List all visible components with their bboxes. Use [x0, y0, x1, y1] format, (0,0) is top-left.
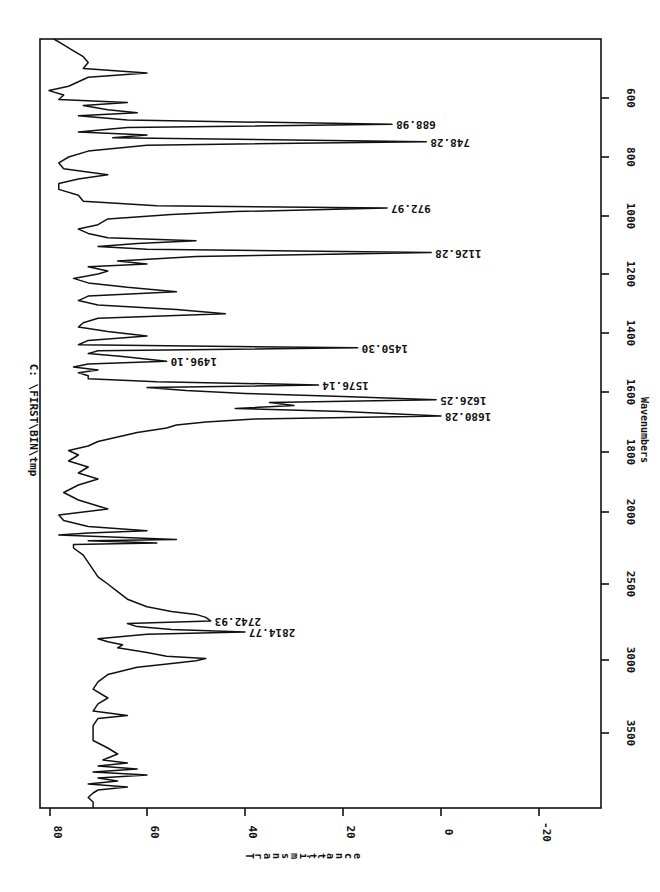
peak-label: 688.98 [396, 118, 436, 131]
y-tick-label: 60 [148, 825, 161, 838]
x-tick-label: 1400 [624, 320, 637, 347]
x-tick-label: 3000 [624, 647, 637, 674]
transmittance-axis: 806040200-20 [50, 808, 553, 842]
x-tick-label: 800 [624, 147, 637, 167]
wavenumber-axis-label: Wavenumbers [639, 397, 650, 463]
wavenumber-axis: 3500300025002000180016001400120010008006… [601, 88, 637, 746]
y-tick-label: 20 [344, 825, 357, 838]
y-tick-label: 0 [442, 829, 455, 836]
ir-spectrum-chart: 3500300025002000180016001400120010008006… [0, 0, 660, 892]
y-tick-label: 40 [246, 825, 259, 838]
y-tick-label: 80 [51, 825, 64, 838]
peak-labels: 688.98748.28972.971126.281450.301496.101… [171, 118, 492, 639]
peak-label: 1576.14 [322, 379, 369, 392]
peak-label: 1626.25 [440, 394, 486, 407]
peak-label: 1496.10 [171, 355, 217, 368]
x-tick-label: 1600 [624, 379, 637, 406]
x-tick-label: 2500 [624, 571, 637, 598]
chart-title: C: \FIRST\BIN\tmp [27, 364, 40, 477]
x-tick-label: 2000 [624, 499, 637, 526]
spectrum-line [49, 39, 441, 808]
x-tick-label: 1200 [624, 261, 637, 288]
x-tick-label: 1000 [624, 203, 637, 230]
peak-label: 1450.30 [362, 342, 408, 355]
peak-label: 2814.77 [249, 626, 295, 639]
svg-text:e: e [352, 853, 363, 859]
peak-label: 1126.28 [435, 247, 481, 260]
x-tick-label: 1800 [624, 439, 637, 466]
peak-label: 748.28 [430, 136, 470, 149]
plot-frame [40, 39, 601, 808]
x-tick-label: 3500 [624, 720, 637, 747]
peak-label: 1680.28 [445, 410, 491, 423]
y-tick-label: -20 [540, 822, 553, 842]
transmittance-label-glyphs: Transmittance [244, 853, 363, 859]
peak-label: 972.97 [391, 202, 431, 215]
x-tick-label: 600 [624, 88, 637, 108]
